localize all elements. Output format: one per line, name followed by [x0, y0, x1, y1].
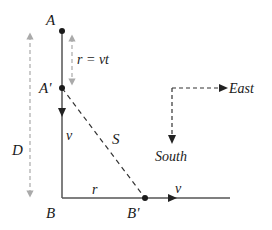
point-b-prime-label: B' — [127, 205, 140, 221]
point-a — [59, 28, 65, 34]
point-b-prime — [142, 195, 148, 201]
separation-line — [62, 88, 145, 198]
compass-east-label: East — [228, 81, 255, 96]
compass-south-label: South — [155, 149, 187, 164]
displacement-label: r = vt — [77, 52, 110, 67]
motion-diagram: D r = vt v v r S A A' B B' East South — [0, 0, 272, 230]
point-a-prime-label: A' — [38, 80, 52, 96]
separation-label: S — [112, 131, 120, 147]
velocity-horizontal-label: v — [175, 181, 182, 196]
point-b-label: B — [46, 205, 55, 221]
horizontal-distance-label: r — [92, 182, 98, 197]
distance-d-label: D — [11, 142, 23, 158]
compass — [168, 84, 228, 144]
south-arrow-icon — [168, 135, 176, 144]
point-a-prime — [59, 85, 65, 91]
point-a-label: A — [45, 12, 56, 28]
velocity-vertical-label: v — [66, 128, 73, 143]
velocity-down-arrow-icon — [58, 108, 66, 117]
east-arrow-icon — [219, 84, 228, 92]
